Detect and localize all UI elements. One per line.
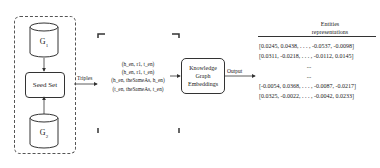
triple-item: (h_en, r1, t_en) [103, 68, 173, 76]
kge-box: Knowledge Graph Embeddings [181, 58, 225, 94]
entities-title: Entities [285, 20, 375, 28]
kge-line3: Embeddings [188, 80, 218, 88]
vector-row: [0.0325, -0.0022, . . . , -0.0042, 0.023… [259, 91, 380, 101]
entities-header: Entities representations [285, 20, 375, 36]
kge-line2: Graph [196, 72, 211, 80]
entity-vectors: [0.0245, 0.0438, . . . , -0.0537, -0.009… [259, 41, 380, 101]
edge-label-output: Output [227, 68, 242, 74]
kge-line1: Knowledge [189, 64, 217, 72]
vector-row: [-0.0054, 0.0368, . . . , -0.0087, -0.02… [259, 81, 380, 91]
edge-label-triples: Triples [77, 75, 92, 81]
triples-list: (h_en, r1, t_en) (h_en, r1, t_en) (h_en,… [103, 60, 173, 93]
entities-subtitle: representations [285, 28, 375, 36]
entities-rule [258, 36, 376, 37]
vector-row: [0.0245, 0.0438, . . . , -0.0537, -0.009… [259, 41, 380, 51]
ellipsis-row: ... [259, 71, 359, 81]
ellipsis-row: ... [259, 61, 359, 71]
triple-item: (h_en, theSameAs, h_en) [103, 76, 173, 84]
vector-row: [0.0311, -0.0218, . . . , -0.0112, 0.014… [259, 51, 380, 61]
triple-item: (t_en, theSameAs, t_en) [103, 85, 173, 93]
triple-item: (h_en, r1, t_en) [103, 60, 173, 68]
